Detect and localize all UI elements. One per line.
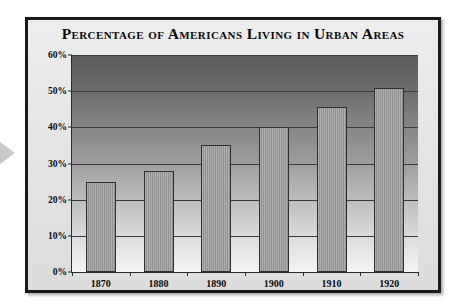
x-axis-tick-mark	[418, 272, 419, 276]
x-axis-tick-mark	[72, 272, 73, 276]
bar-1880	[144, 171, 174, 272]
y-axis-tick-label: 60%	[48, 50, 67, 60]
chart-title: Percentage of Americans Living in Urban …	[28, 25, 438, 43]
bar-1890	[201, 145, 231, 272]
bar-1900	[259, 127, 289, 272]
gridline	[72, 164, 418, 165]
x-axis-label-1920: 1920	[379, 278, 399, 289]
chart-card: Percentage of Americans Living in Urban …	[28, 20, 438, 290]
x-axis-label-1910: 1910	[322, 278, 342, 289]
gridline	[72, 91, 418, 92]
y-axis-tick-label: 40%	[48, 122, 67, 132]
gridline	[72, 236, 418, 237]
y-axis-tick-mark	[68, 55, 72, 56]
bar-1870	[86, 182, 116, 272]
bar-1910	[317, 107, 347, 272]
y-axis-tick-mark	[68, 235, 72, 236]
x-axis-label-1900: 1900	[264, 278, 284, 289]
x-axis-label-1870: 1870	[91, 278, 111, 289]
y-axis-tick-label: 20%	[48, 195, 67, 205]
plot-area: 0%10%20%30%40%50%60%18701880189019001910…	[71, 55, 418, 273]
y-axis-tick-label: 0%	[53, 267, 67, 277]
x-axis-tick-mark	[130, 272, 131, 276]
x-axis-tick-mark	[360, 272, 361, 276]
y-axis-tick-label: 10%	[48, 231, 67, 241]
gridline	[72, 200, 418, 201]
x-axis-label-1880: 1880	[149, 278, 169, 289]
y-axis-tick-mark	[68, 199, 72, 200]
gridline	[72, 55, 418, 56]
x-axis-tick-mark	[245, 272, 246, 276]
chart-frame: Percentage of Americans Living in Urban …	[25, 17, 441, 293]
y-axis-tick-mark	[68, 91, 72, 92]
y-axis-tick-label: 30%	[48, 159, 67, 169]
y-axis-tick-mark	[68, 163, 72, 164]
x-axis-tick-mark	[303, 272, 304, 276]
gridline	[72, 127, 418, 128]
bar-1920	[374, 88, 404, 272]
y-axis-tick-mark	[68, 127, 72, 128]
x-axis-tick-mark	[187, 272, 188, 276]
y-axis-tick-label: 50%	[48, 86, 67, 96]
x-axis-label-1890: 1890	[206, 278, 226, 289]
left-edge-triangle-marker	[0, 142, 15, 164]
